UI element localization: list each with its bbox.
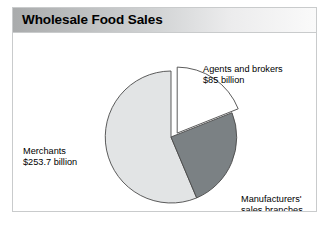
slice-label-manufacturers-line1: Manufacturers' (241, 194, 303, 205)
chart-title-bar: Wholesale Food Sales (13, 8, 316, 33)
slice-label-agents: Agents and brokers $85 billion (203, 64, 283, 86)
page-title: Wholesale Food Sales (22, 12, 163, 27)
slice-label-merchants-value: $253.7 billion (23, 157, 77, 168)
slice-label-agents-value: $85 billion (203, 75, 283, 86)
chart-figure: Wholesale Food Sales Agents and brokers … (12, 7, 317, 212)
pie-chart (13, 34, 317, 212)
pie-plot-area: Agents and brokers $85 billion Merchants… (13, 34, 316, 212)
slice-label-manufacturers-line2: sales branches (241, 205, 303, 212)
slice-label-merchants-name: Merchants (23, 146, 77, 157)
slice-label-manufacturers: Manufacturers' sales branches $114.5 bil… (241, 194, 303, 212)
slice-label-merchants: Merchants $253.7 billion (23, 146, 77, 168)
slice-label-agents-name: Agents and brokers (203, 64, 283, 75)
